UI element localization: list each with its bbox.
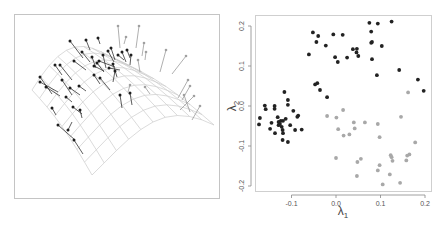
data-point — [355, 174, 359, 178]
data-point — [107, 50, 110, 53]
data-point — [311, 31, 315, 35]
data-point — [185, 55, 188, 58]
data-point — [51, 107, 54, 110]
x-tick-label: -0.1 — [285, 200, 297, 207]
data-point — [199, 105, 202, 108]
data-point — [355, 47, 359, 51]
data-point — [370, 57, 374, 61]
data-point — [369, 41, 373, 45]
data-point — [270, 121, 274, 125]
residual-line — [100, 78, 110, 90]
residual-line — [142, 43, 144, 56]
plot-frame — [15, 15, 220, 199]
residual-line — [130, 93, 132, 105]
x-axis: -0.10.00.10.2 — [285, 195, 430, 207]
residual-line — [160, 50, 166, 72]
wire-line — [66, 50, 140, 129]
data-point — [348, 133, 352, 137]
residual-segments — [39, 25, 202, 154]
data-point — [67, 129, 70, 132]
data-point — [165, 49, 168, 52]
data-point — [391, 159, 395, 163]
data-point — [286, 98, 290, 102]
data-point — [145, 51, 148, 54]
scatter-points — [257, 20, 426, 187]
data-point — [273, 131, 277, 135]
y-tick-label: -0.1 — [238, 140, 245, 152]
data-point — [276, 115, 280, 119]
data-point — [375, 73, 379, 77]
data-point — [422, 89, 426, 93]
data-point — [268, 127, 272, 131]
data-point — [333, 55, 337, 59]
data-point — [336, 60, 340, 64]
data-point — [376, 122, 380, 126]
data-point — [93, 74, 96, 77]
data-point — [336, 127, 340, 131]
data-point — [129, 84, 132, 87]
data-point — [397, 68, 401, 72]
data-point — [81, 51, 84, 54]
data-point — [293, 128, 297, 132]
wire-line — [55, 68, 155, 117]
data-point — [98, 60, 101, 63]
data-point — [318, 88, 322, 92]
data-point — [117, 54, 120, 57]
data-point — [281, 138, 285, 142]
data-point — [119, 94, 122, 97]
data-point — [73, 60, 76, 63]
data-point — [380, 44, 384, 48]
data-point — [369, 30, 373, 34]
data-point — [283, 90, 287, 94]
data-point — [398, 181, 402, 185]
data-point — [288, 123, 292, 127]
data-point — [376, 22, 380, 26]
data-point — [334, 156, 338, 160]
data-point — [125, 36, 128, 39]
data-point — [335, 116, 339, 120]
data-point — [78, 85, 81, 88]
data-point — [284, 117, 288, 121]
data-point — [341, 108, 345, 112]
data-point — [368, 21, 372, 25]
data-point — [416, 78, 420, 82]
data-point — [286, 140, 290, 144]
wire-line — [92, 116, 214, 176]
y-tick-label: -0.2 — [238, 180, 245, 192]
data-point — [378, 163, 382, 167]
plot-frame — [256, 16, 432, 192]
data-point — [257, 123, 261, 127]
data-point — [281, 131, 285, 135]
data-point — [355, 51, 359, 55]
residual-line — [113, 71, 115, 82]
data-point — [91, 56, 94, 59]
data-point — [143, 42, 146, 45]
data-point — [315, 81, 319, 85]
residual-line — [122, 52, 126, 62]
data-point — [281, 128, 285, 132]
surface-3d-plot — [0, 0, 222, 227]
data-point — [331, 33, 335, 37]
data-point — [404, 159, 408, 163]
data-point — [381, 183, 385, 187]
data-point — [117, 25, 120, 28]
data-point — [39, 76, 42, 79]
data-point — [341, 33, 345, 37]
residual-line — [103, 55, 106, 68]
data-point — [39, 81, 42, 84]
residual-line — [58, 125, 75, 140]
data-point — [413, 141, 417, 145]
residual-line — [70, 41, 83, 58]
wire-line — [77, 94, 190, 149]
data-point — [121, 51, 124, 54]
data-point — [99, 77, 102, 80]
data-point — [352, 121, 356, 125]
scatter-plot: -0.10.00.10.2 -0.2-0.10.00.10.2 λ1 λ2 — [220, 0, 447, 227]
data-point — [316, 34, 320, 38]
data-point — [183, 94, 186, 97]
wire-line — [92, 48, 177, 115]
data-point — [69, 87, 72, 90]
data-point — [376, 169, 380, 173]
data-point — [356, 160, 360, 164]
data-point — [405, 154, 409, 158]
